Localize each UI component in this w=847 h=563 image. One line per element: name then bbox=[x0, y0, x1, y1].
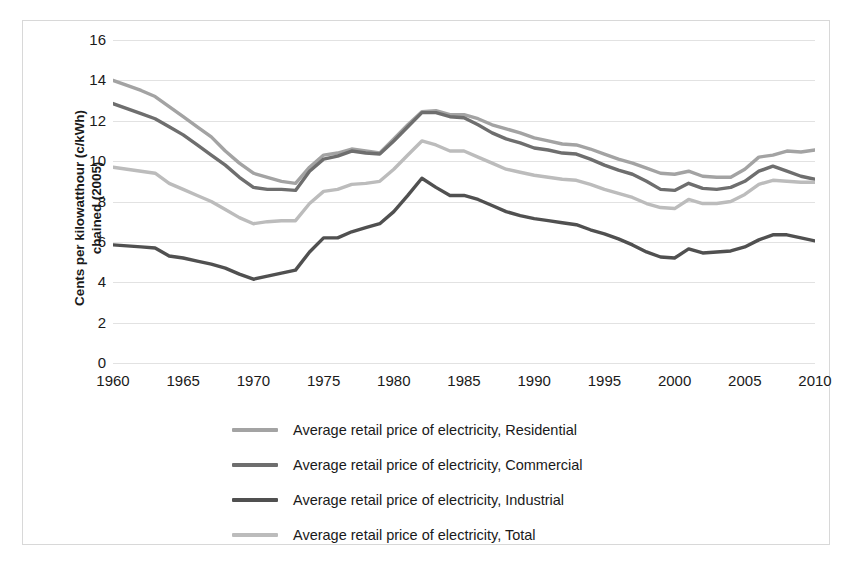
series-line bbox=[113, 178, 815, 279]
y-tick-label: 2 bbox=[66, 315, 106, 330]
x-tick-label: 2000 bbox=[645, 372, 705, 390]
chart-legend: Average retail price of electricity, Res… bbox=[232, 412, 712, 552]
x-tick-label: 1990 bbox=[504, 372, 564, 390]
y-tick-label: 6 bbox=[66, 234, 106, 249]
y-tick-label: 16 bbox=[66, 32, 106, 47]
legend-item[interactable]: Average retail price of electricity, Com… bbox=[232, 447, 712, 482]
y-tick-label: 10 bbox=[66, 153, 106, 168]
x-tick-label: 2005 bbox=[715, 372, 775, 390]
legend-item[interactable]: Average retail price of electricity, Res… bbox=[232, 412, 712, 447]
y-tick-label: 12 bbox=[66, 113, 106, 128]
series-line bbox=[113, 141, 815, 224]
legend-swatch bbox=[232, 498, 278, 502]
x-tick-label: 1970 bbox=[223, 372, 283, 390]
x-axis-tick-labels: 1960196519701975198019851990199520002005… bbox=[113, 372, 815, 394]
x-tick-label: 1985 bbox=[434, 372, 494, 390]
y-tick-label: 0 bbox=[66, 355, 106, 370]
y-tick-label: 4 bbox=[66, 274, 106, 289]
legend-label: Average retail price of electricity, Tot… bbox=[293, 526, 536, 544]
legend-label: Average retail price of electricity, Res… bbox=[293, 421, 577, 439]
x-tick-label: 1980 bbox=[364, 372, 424, 390]
x-tick-label: 1975 bbox=[294, 372, 354, 390]
legend-swatch bbox=[232, 533, 278, 537]
x-tick-label: 1960 bbox=[83, 372, 143, 390]
y-tick-label: 8 bbox=[66, 194, 106, 209]
legend-swatch bbox=[232, 428, 278, 432]
electricity-price-chart-figure: Cents per kilowatthour (c/kWh) chained (… bbox=[0, 0, 847, 563]
x-tick-label: 2010 bbox=[785, 372, 845, 390]
legend-item[interactable]: Average retail price of electricity, Tot… bbox=[232, 517, 712, 552]
x-tick-label: 1995 bbox=[574, 372, 634, 390]
gridline bbox=[113, 363, 815, 364]
series-line bbox=[113, 80, 815, 183]
legend-label: Average retail price of electricity, Ind… bbox=[293, 491, 564, 509]
legend-swatch bbox=[232, 463, 278, 467]
legend-label: Average retail price of electricity, Com… bbox=[293, 456, 583, 474]
x-tick-label: 1965 bbox=[153, 372, 213, 390]
series-lines bbox=[113, 40, 815, 363]
plot-area bbox=[113, 40, 815, 363]
legend-item[interactable]: Average retail price of electricity, Ind… bbox=[232, 482, 712, 517]
y-axis-tick-labels: 0246810121416 bbox=[60, 40, 106, 363]
y-tick-label: 14 bbox=[66, 72, 106, 87]
